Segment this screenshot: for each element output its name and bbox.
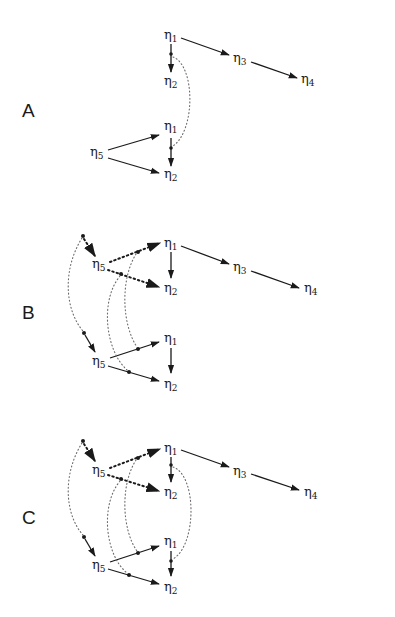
node-eta1-lower: η1 — [164, 330, 178, 347]
node-eta2-lower: η2 — [164, 376, 178, 393]
node-eta2-upper: η2 — [164, 484, 178, 501]
edge-eta3-eta4 — [251, 271, 299, 288]
panel-label-c: C — [22, 507, 36, 528]
dotted-arc-correlation — [68, 238, 83, 331]
edge-dot-eta5-upper — [84, 444, 95, 461]
source-dot-upper — [81, 439, 85, 443]
edge-eta5-eta2-lower — [108, 366, 159, 381]
edge-eta5-eta1-upper — [110, 243, 160, 262]
node-eta2-upper: η2 — [164, 280, 178, 297]
node-eta4: η4 — [304, 484, 318, 501]
edge-eta5-eta2-upper — [108, 475, 159, 491]
node-eta2-lower: η2 — [164, 166, 178, 183]
node-eta1-upper: η1 — [164, 27, 178, 44]
dotted-arc-correlation — [125, 460, 137, 551]
node-eta1-upper: η1 — [164, 440, 178, 457]
dotted-arc-correlation — [68, 443, 83, 535]
node-eta5-lower: η5 — [92, 557, 106, 574]
edge-dot — [169, 559, 173, 563]
edge-eta5-eta1-lower — [108, 135, 159, 150]
edge-eta1-eta3 — [181, 450, 229, 467]
node-eta1-lower: η1 — [164, 118, 178, 135]
node-eta2-upper: η2 — [164, 73, 178, 90]
edge-dot — [136, 551, 140, 555]
node-eta5-upper: η5 — [92, 462, 106, 479]
node-eta5-lower: η5 — [90, 144, 104, 161]
edge-dot — [127, 370, 131, 374]
node-eta3: η3 — [233, 463, 247, 480]
panel-a: A η1 η2 η3 η4 η1 η2 η5 — [22, 27, 315, 183]
dotted-arc-correlation — [125, 254, 137, 347]
edge-eta5-eta1-upper — [110, 449, 160, 468]
edge-dot — [119, 272, 123, 276]
panel-label-b: B — [22, 302, 35, 323]
edge-eta3-eta4 — [251, 474, 299, 490]
edge-dot — [119, 477, 123, 481]
panel-b: B η1 η2 η3 η4 η5 η1 η2 η5 — [22, 234, 318, 393]
path-diagram-figure: A η1 η2 η3 η4 η1 η2 η5 B η1 η2 η3 η4 η5 — [0, 0, 395, 617]
node-eta1-upper: η1 — [164, 235, 178, 252]
edge-dot — [127, 573, 131, 577]
edge-dot-eta5-upper — [84, 239, 95, 256]
panel-c: C η1 η2 η3 η4 η5 η1 η2 η5 — [22, 439, 318, 596]
edge-dot — [136, 456, 140, 460]
node-eta4: η4 — [304, 280, 318, 297]
node-eta5-lower: η5 — [92, 353, 106, 370]
edge-dot — [136, 250, 140, 254]
edge-eta5-eta1-lower — [110, 546, 159, 562]
source-dot-upper — [81, 234, 85, 238]
edge-dot — [169, 463, 173, 467]
node-eta1-lower: η1 — [164, 533, 178, 550]
edge-eta1-eta3 — [181, 246, 229, 264]
edge-dot — [136, 347, 140, 351]
source-dot-lower — [82, 331, 86, 335]
edge-dot-eta5-lower — [85, 335, 95, 352]
edge-dot — [169, 52, 173, 56]
edge-dot — [169, 146, 173, 150]
node-eta4: η4 — [301, 71, 315, 88]
node-eta3: η3 — [233, 50, 247, 67]
edge-eta3-eta4 — [251, 62, 297, 78]
edge-dot-eta5-lower — [85, 539, 95, 556]
panel-label-a: A — [22, 100, 35, 121]
node-eta3: η3 — [233, 259, 247, 276]
source-dot-lower — [82, 535, 86, 539]
edge-eta5-eta2-lower — [108, 158, 159, 173]
edge-eta1-eta3 — [181, 38, 229, 55]
node-eta5-upper: η5 — [92, 256, 106, 273]
edge-eta5-eta1-lower — [110, 342, 159, 358]
node-eta2-lower: η2 — [164, 579, 178, 596]
edge-eta5-eta2-upper — [108, 270, 159, 287]
edge-eta5-eta2-lower — [108, 569, 159, 584]
